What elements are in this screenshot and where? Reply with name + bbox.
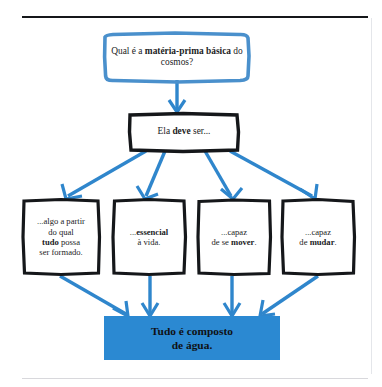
criterion-node-1[interactable]: ...essencialà vida. bbox=[113, 200, 185, 274]
running-head bbox=[22, 0, 352, 10]
arrow-premise-to-criterion-1 bbox=[137, 151, 165, 199]
arrow-criterion-3-to-conclusion bbox=[260, 276, 318, 316]
criterion-text-1: ...essencialà vida. bbox=[126, 227, 172, 248]
criterion-node-0[interactable]: ...algo a partirdo qualtudo possaser for… bbox=[23, 200, 99, 274]
arrow-criterion-2-to-conclusion bbox=[224, 276, 240, 316]
arrow-premise-to-criterion-3 bbox=[230, 151, 317, 199]
criterion-text-2: ...capazde se mover. bbox=[207, 227, 260, 248]
criterion-node-3[interactable]: ...capazde mudar. bbox=[282, 200, 354, 274]
criterion-node-2[interactable]: ...capazde se mover. bbox=[198, 200, 270, 274]
conclusion-node[interactable]: Tudo é compostode água. bbox=[104, 316, 280, 360]
arrow-criterion-1-to-conclusion bbox=[142, 276, 158, 316]
arrow-premise-to-criterion-0 bbox=[62, 151, 146, 199]
arrow-criterion-0-to-conclusion bbox=[60, 276, 128, 316]
conclusion-text: Tudo é compostode água. bbox=[147, 324, 237, 352]
page-canvas: Qual é a matéria-prima básica do cosmos?… bbox=[0, 0, 382, 387]
arrow-premise-to-criterion-2 bbox=[205, 151, 242, 199]
premise-text: Ela deve ser... bbox=[154, 126, 215, 137]
flowchart: Qual é a matéria-prima básica do cosmos?… bbox=[0, 18, 382, 376]
question-text: Qual é a matéria-prima básica do cosmos? bbox=[103, 46, 251, 69]
criterion-text-3: ...capazde mudar. bbox=[295, 227, 340, 248]
footer-rule bbox=[22, 378, 368, 379]
question-node[interactable]: Qual é a matéria-prima básica do cosmos? bbox=[103, 34, 251, 80]
criterion-text-0: ...algo a partirdo qualtudo possaser for… bbox=[33, 216, 89, 258]
premise-node[interactable]: Ela deve ser... bbox=[129, 114, 239, 150]
